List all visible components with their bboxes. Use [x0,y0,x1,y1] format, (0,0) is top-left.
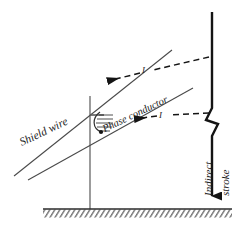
insulator-attachment-point [99,130,103,134]
current-label-shield: I [142,66,145,75]
current-label-phase: I [159,111,162,120]
lightning-stroke-diagram: Shield wire Phase conductor Indirect str… [0,0,249,230]
indirect-stroke-label-line1: Indirect [203,162,214,196]
indirect-stroke-label-line2: stroke [220,170,231,196]
induced-arrow-phase-seg-right [170,113,209,115]
ground-line [43,209,232,218]
